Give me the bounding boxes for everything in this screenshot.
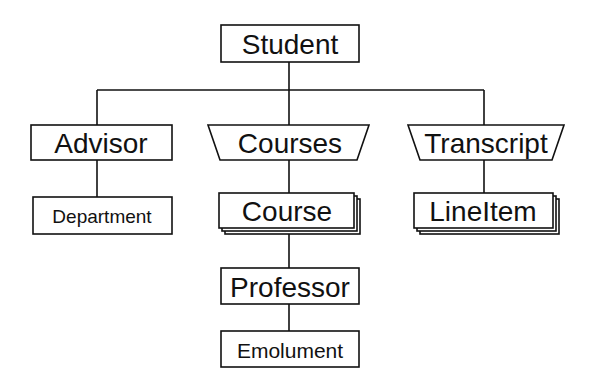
department-label: Department [52,206,152,227]
transcript-label: Transcript [424,128,548,159]
lineitem-label: LineItem [429,196,536,227]
course-label: Course [242,196,332,227]
hierarchy-diagram: Student Advisor Courses Transcript Depar… [0,0,597,384]
emolument-label: Emolument [237,339,343,362]
node-emolument[interactable]: Emolument [221,331,359,367]
courses-label: Courses [238,128,342,159]
node-lineitem[interactable]: LineItem [414,193,559,234]
node-department[interactable]: Department [33,197,172,234]
node-course[interactable]: Course [219,193,360,234]
node-advisor[interactable]: Advisor [31,125,172,160]
node-courses[interactable]: Courses [208,125,369,160]
node-transcript[interactable]: Transcript [408,125,564,160]
node-student[interactable]: Student [221,25,359,62]
student-label: Student [242,29,339,60]
node-professor[interactable]: Professor [221,268,359,304]
professor-label: Professor [230,272,350,303]
advisor-label: Advisor [54,128,147,159]
